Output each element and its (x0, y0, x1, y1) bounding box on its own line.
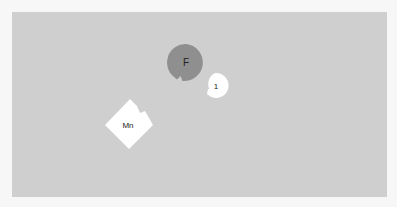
piece-f[interactable]: F (167, 44, 203, 81)
piece-1[interactable]: 1 (207, 73, 229, 98)
diagram-canvas: F 1 Mn (0, 0, 397, 207)
piece-mn[interactable]: Mn (105, 99, 153, 149)
piece-mn-label: Mn (122, 121, 133, 130)
piece-f-label: F (183, 57, 189, 68)
piece-1-label: 1 (214, 82, 219, 91)
